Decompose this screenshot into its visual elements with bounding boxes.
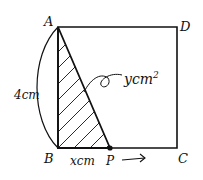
- side-length-label: 4cm: [13, 88, 40, 102]
- point-p: [107, 145, 112, 150]
- vertex-label-d: D: [179, 19, 191, 34]
- vertex-label-c: C: [178, 151, 188, 166]
- segment-bp-label: xcm: [70, 154, 95, 168]
- vertex-label-a: A: [43, 14, 53, 29]
- geometry-diagram: A D B C P 4cm xcm ycm2: [0, 0, 203, 180]
- arrow-right-icon: [122, 154, 145, 162]
- triangle-abp: [58, 27, 110, 148]
- area-leader-line: [84, 74, 122, 92]
- vertex-label-b: B: [43, 151, 54, 166]
- side-brace-arc: [37, 27, 58, 148]
- area-label: ycm2: [123, 70, 159, 87]
- point-label-p: P: [105, 154, 115, 168]
- triangle-hatching: [40, 20, 180, 156]
